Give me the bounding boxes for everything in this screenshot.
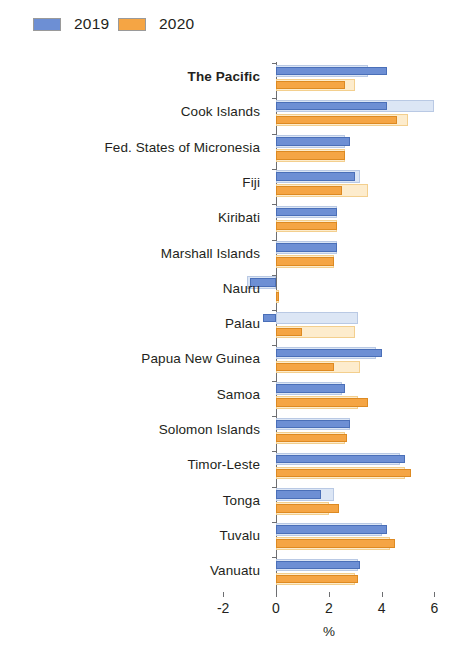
category-label: Palau (225, 317, 260, 331)
x-axis-tick (223, 592, 224, 597)
bar-2020 (276, 222, 337, 231)
category-label: The Pacific (188, 70, 260, 84)
category-label: Timor-Leste (187, 458, 260, 472)
bar-2019 (276, 67, 387, 76)
category-tick (272, 63, 276, 64)
x-axis-tick-label: -2 (217, 600, 229, 616)
category-label: Cook Islands (181, 105, 260, 119)
category-tick (272, 487, 276, 488)
bar-2019 (276, 455, 405, 464)
category-label: Marshall Islands (161, 247, 260, 261)
category-tick (272, 522, 276, 523)
bar-2020 (276, 81, 345, 90)
category-label: Tuvalu (219, 529, 260, 543)
bar-2019 (276, 561, 360, 570)
bar-2020 (276, 257, 334, 266)
bar-2019 (276, 490, 321, 499)
bar-2020 (276, 469, 411, 478)
bar-2019 (263, 314, 276, 323)
bar-2019-reference (276, 312, 358, 325)
category-tick (272, 381, 276, 382)
category-tick (272, 275, 276, 276)
category-label: Tonga (223, 494, 260, 508)
category-label: Samoa (217, 388, 260, 402)
x-axis-tick (382, 592, 383, 597)
category-label: Fiji (242, 176, 260, 190)
category-label: Nauru (223, 282, 260, 296)
category-tick (272, 557, 276, 558)
bar-2020 (276, 328, 302, 337)
category-tick (272, 169, 276, 170)
x-axis-tick-label: 0 (272, 600, 280, 616)
bar-2019 (276, 102, 387, 111)
category-tick (272, 134, 276, 135)
category-label: Vanuatu (210, 564, 260, 578)
x-axis-tick (329, 592, 330, 597)
bar-2019 (276, 172, 355, 181)
bar-2019 (276, 137, 350, 146)
x-axis-tick (434, 592, 435, 597)
bar-2020 (276, 504, 339, 513)
x-axis-title: % (323, 624, 335, 639)
bar-2020 (276, 116, 397, 125)
bar-2020 (276, 434, 347, 443)
bar-2019 (276, 243, 337, 252)
category-tick (272, 240, 276, 241)
x-axis-tick-label: 4 (378, 600, 386, 616)
bar-2020 (276, 363, 334, 372)
bar-2020 (276, 151, 345, 160)
x-axis-tick-label: 6 (430, 600, 438, 616)
bar-2019 (276, 384, 345, 393)
bar-2019 (276, 349, 382, 358)
bar-2020 (276, 575, 358, 584)
category-label: Kiribati (218, 211, 260, 225)
category-label: Papua New Guinea (141, 352, 260, 366)
bar-2020 (276, 292, 279, 301)
category-tick (272, 98, 276, 99)
category-tick (272, 204, 276, 205)
bar-2020 (276, 186, 342, 195)
x-axis-tick (276, 592, 277, 597)
category-tick (272, 451, 276, 452)
x-axis-tick-label: 2 (325, 600, 333, 616)
bar-2020 (276, 539, 395, 548)
bar-2019 (276, 525, 387, 534)
category-tick (272, 345, 276, 346)
bar-2020 (276, 398, 368, 407)
category-label: Fed. States of Micronesia (104, 141, 260, 155)
category-tick (272, 310, 276, 311)
bar-chart: The PacificCook IslandsFed. States of Mi… (0, 0, 453, 649)
bar-2019 (276, 208, 337, 217)
bar-2019 (276, 420, 350, 429)
category-tick (272, 416, 276, 417)
category-label: Solomon Islands (159, 423, 260, 437)
